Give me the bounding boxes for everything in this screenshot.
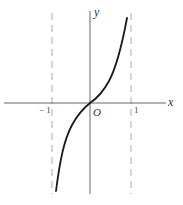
y-axis-label: y — [94, 6, 99, 18]
x-axis-label: x — [168, 96, 173, 108]
tick-label-pos1: 1 — [134, 106, 139, 115]
origin-label: O — [93, 106, 101, 118]
graph — [0, 0, 183, 205]
function-curve — [56, 18, 127, 191]
tick-label-neg1: − 1 — [39, 106, 51, 115]
